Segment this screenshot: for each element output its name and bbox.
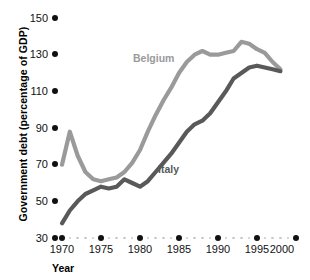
x-tick-minor-1978 (123, 237, 126, 240)
x-tick-minor-1998 (279, 237, 282, 240)
x-tick-dot-1970 (59, 235, 65, 241)
x-tick-dot-1990 (215, 235, 221, 241)
x-tick-label-1990: 1990 (198, 243, 238, 255)
x-tick-label-1975: 1975 (81, 243, 121, 255)
x-tick-dot-1975 (98, 235, 104, 241)
x-tick-minor-1973 (84, 237, 87, 240)
x-tick-dot-1995 (254, 235, 260, 241)
series-label-belgium: Belgium (133, 52, 174, 64)
chart-container: Government debt (percentage of GDP) 150 … (0, 0, 310, 280)
x-tick-minor-1988 (201, 237, 204, 240)
x-axis-title: Year (52, 262, 74, 274)
x-tick-label-1980: 1980 (120, 243, 160, 255)
x-tick-label-1970: 1970 (42, 243, 82, 255)
x-tick-dot-2000 (293, 235, 299, 241)
x-tick-minor-1983 (162, 237, 165, 240)
series-label-italy: Italy (158, 163, 179, 175)
x-tick-label-2000: 2000 (262, 243, 302, 255)
x-tick-dot-1980 (137, 235, 143, 241)
x-tick-minor-1993 (240, 237, 243, 240)
x-tick-dot-1985 (176, 235, 182, 241)
x-tick-label-1985: 1985 (159, 243, 199, 255)
